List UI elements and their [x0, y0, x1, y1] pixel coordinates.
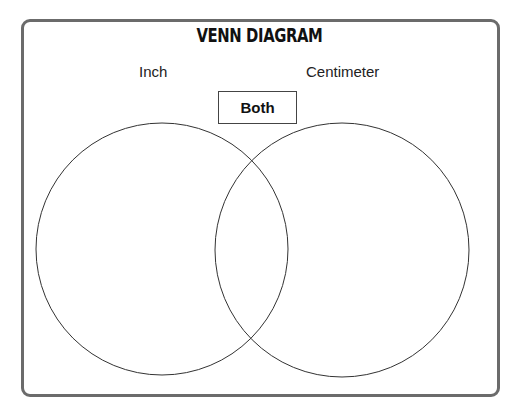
intersection-label-box: Both [218, 91, 297, 124]
circle-centimeter [215, 123, 469, 377]
venn-circles [0, 0, 519, 411]
